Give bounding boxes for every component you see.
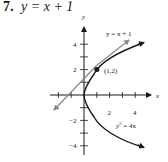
x-axis-label: x (155, 92, 160, 100)
curve-label: y2 = 4x (115, 121, 137, 130)
x-tick-label-2: 2 (108, 109, 112, 117)
y-tick-label-4: 4 (73, 41, 77, 49)
y-tick-label-neg2: −2 (69, 117, 77, 125)
point-label: (1,2) (104, 67, 118, 75)
line-y-equals-x-plus-1 (54, 40, 129, 110)
y-tick-label-neg4: −4 (69, 142, 77, 150)
graph: y x 2 4 4 2 −2 −4 (1,2) y = x + 1 y2 = 4… (0, 0, 168, 162)
x-tick-label-4: 4 (133, 109, 137, 117)
line-label: y = x + 1 (106, 30, 132, 38)
y-tick-label-2: 2 (73, 66, 77, 74)
y-axis-label: y (81, 13, 86, 21)
intersection-point (94, 67, 99, 72)
